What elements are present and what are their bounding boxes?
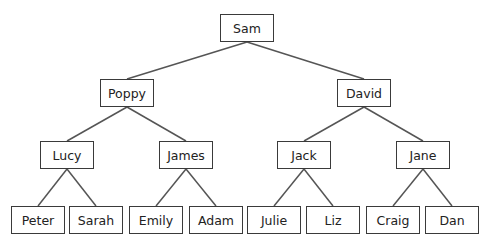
node-james: James: [159, 141, 213, 169]
node-label: Sam: [233, 21, 261, 36]
edge-jack-julie: [274, 169, 304, 206]
edge-jane-dan: [423, 169, 452, 206]
node-label: Jane: [410, 148, 437, 163]
edge-james-emily: [156, 169, 186, 206]
node-label: Emily: [139, 213, 173, 228]
node-sarah: Sarah: [69, 206, 123, 234]
node-label: Jack: [291, 148, 316, 163]
node-david: David: [337, 79, 391, 107]
node-julie: Julie: [247, 206, 301, 234]
edge-sam-poppy: [127, 42, 247, 79]
node-poppy: Poppy: [100, 79, 154, 107]
node-label: Craig: [377, 213, 410, 228]
node-label: Peter: [22, 213, 55, 228]
node-label: Dan: [439, 213, 464, 228]
node-sam: Sam: [220, 14, 274, 42]
edge-sam-david: [247, 42, 364, 79]
edge-jane-craig: [393, 169, 423, 206]
edge-david-jane: [364, 107, 423, 141]
node-label: Julie: [261, 213, 287, 228]
node-label: Poppy: [108, 86, 146, 101]
edge-lucy-peter: [38, 169, 67, 206]
node-label: Adam: [198, 213, 234, 228]
edge-james-adam: [186, 169, 216, 206]
node-lucy: Lucy: [40, 141, 94, 169]
edge-poppy-lucy: [67, 107, 127, 141]
node-emily: Emily: [129, 206, 183, 234]
node-peter: Peter: [11, 206, 65, 234]
edge-david-jack: [304, 107, 364, 141]
node-adam: Adam: [189, 206, 243, 234]
node-label: James: [167, 148, 205, 163]
node-jane: Jane: [396, 141, 450, 169]
node-label: David: [346, 86, 382, 101]
node-label: Sarah: [78, 213, 114, 228]
edge-lucy-sarah: [67, 169, 96, 206]
edge-poppy-james: [127, 107, 186, 141]
node-label: Liz: [325, 213, 342, 228]
node-craig: Craig: [366, 206, 420, 234]
node-dan: Dan: [425, 206, 479, 234]
node-jack: Jack: [277, 141, 331, 169]
node-liz: Liz: [306, 206, 360, 234]
edge-jack-liz: [304, 169, 333, 206]
node-label: Lucy: [53, 148, 82, 163]
